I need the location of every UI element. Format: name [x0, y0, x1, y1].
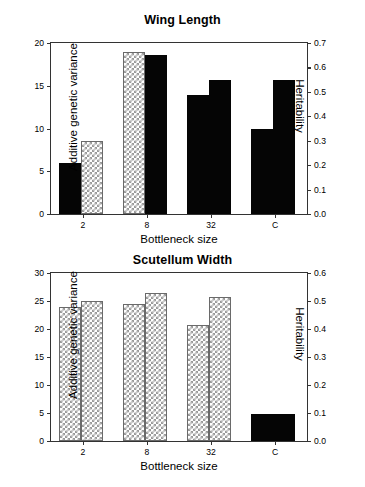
chart-title-bottom: Scutellum Width	[0, 253, 365, 267]
y-tick-label-right: 0.4	[314, 112, 326, 121]
figure-two-panel-bar-charts: Wing Length 05101520 0.00.10.20.30.40.50…	[0, 0, 365, 487]
y-tick-label-right: 0.1	[314, 409, 326, 418]
y-tick-right	[307, 357, 311, 358]
y-tick-right	[307, 385, 311, 386]
y-tick-left	[47, 129, 51, 130]
y-axis-right-title-top: Heritability	[294, 21, 306, 191]
y-tick-right	[307, 214, 311, 215]
y-tick-left	[47, 357, 51, 358]
y-tick-label-right: 0.3	[314, 136, 326, 145]
y-tick-right	[307, 413, 311, 414]
bar	[209, 297, 231, 441]
y-tick-right	[307, 92, 311, 93]
x-tick-label: C	[272, 448, 278, 457]
y-tick-right	[307, 141, 311, 142]
y-tick-left	[47, 413, 51, 414]
y-tick-label-left: 20	[34, 325, 44, 334]
plot-area-bottom: 051015202530 0.00.10.20.30.40.50.6 2832C…	[50, 272, 308, 442]
y-tick-label-right: 0.7	[314, 39, 326, 48]
y-axis-left-title-bottom: Additive genetic variance	[67, 250, 79, 420]
y-tick-label-left: 10	[34, 124, 44, 133]
y-tick-label-right: 0.5	[314, 297, 326, 306]
x-tick	[147, 441, 148, 445]
x-axis-title-bottom: Bottleneck size	[51, 460, 307, 472]
bar	[187, 325, 209, 441]
y-tick-label-right: 0.5	[314, 88, 326, 97]
y-tick-label-left: 20	[34, 39, 44, 48]
y-tick-label-left: 5	[39, 167, 44, 176]
y-tick-right	[307, 329, 311, 330]
x-tick-label: 8	[145, 221, 150, 230]
x-tick-label: 2	[81, 448, 86, 457]
x-tick	[211, 214, 212, 218]
bar	[145, 293, 167, 441]
bar	[145, 55, 167, 214]
y-tick-left	[47, 273, 51, 274]
panel-scutellum-width: Scutellum Width 051015202530 0.00.10.20.…	[0, 244, 365, 487]
bar	[187, 95, 209, 214]
y-tick-label-right: 0.6	[314, 269, 326, 278]
y-tick-label-left: 15	[34, 353, 44, 362]
x-tick-label: 32	[206, 448, 216, 457]
x-tick	[275, 441, 276, 445]
y-tick-label-left: 25	[34, 297, 44, 306]
y-tick-label-left: 0	[39, 437, 44, 446]
panel-wing-length: Wing Length 05101520 0.00.10.20.30.40.50…	[0, 0, 365, 244]
x-tick-label: 32	[206, 221, 216, 230]
x-tick	[211, 441, 212, 445]
y-tick-left	[47, 441, 51, 442]
y-tick-right	[307, 190, 311, 191]
y-tick-label-right: 0.2	[314, 161, 326, 170]
y-tick-right	[307, 67, 311, 68]
y-tick-left	[47, 329, 51, 330]
y-tick-label-left: 10	[34, 381, 44, 390]
x-tick	[83, 441, 84, 445]
y-tick-label-left: 30	[34, 269, 44, 278]
y-tick-label-right: 0.1	[314, 185, 326, 194]
bar	[251, 129, 273, 214]
y-tick-left	[47, 301, 51, 302]
y-tick-left	[47, 385, 51, 386]
bars-container-top	[51, 43, 307, 214]
y-tick-left	[47, 43, 51, 44]
bar	[209, 80, 231, 214]
bar	[81, 301, 103, 441]
x-tick	[275, 214, 276, 218]
x-tick-label: 8	[145, 448, 150, 457]
bar	[123, 52, 145, 214]
y-tick-label-right: 0.6	[314, 63, 326, 72]
y-tick-right	[307, 116, 311, 117]
bar	[251, 414, 295, 441]
y-tick-label-right: 0.3	[314, 353, 326, 362]
y-tick-label-right: 0.0	[314, 210, 326, 219]
y-tick-right	[307, 165, 311, 166]
y-tick-right	[307, 301, 311, 302]
y-tick-left	[47, 171, 51, 172]
y-tick-label-right: 0.4	[314, 325, 326, 334]
x-tick	[83, 214, 84, 218]
bar	[123, 304, 145, 441]
y-tick-right	[307, 273, 311, 274]
y-tick-label-left: 15	[34, 81, 44, 90]
x-tick-label: 2	[81, 221, 86, 230]
y-tick-left	[47, 214, 51, 215]
y-tick-label-left: 5	[39, 409, 44, 418]
y-tick-left	[47, 86, 51, 87]
chart-title-top: Wing Length	[0, 13, 365, 27]
y-tick-label-left: 0	[39, 210, 44, 219]
bar	[81, 141, 103, 214]
y-tick-right	[307, 441, 311, 442]
plot-area-top: 05101520 0.00.10.20.30.40.50.60.7 2832C …	[50, 42, 308, 215]
y-axis-right-title-bottom: Heritability	[294, 249, 306, 419]
x-tick-label: C	[272, 221, 278, 230]
y-tick-right	[307, 43, 311, 44]
y-tick-label-right: 0.0	[314, 437, 326, 446]
bar	[273, 80, 295, 214]
bars-container-bottom	[51, 273, 307, 441]
x-tick	[147, 214, 148, 218]
y-tick-label-right: 0.2	[314, 381, 326, 390]
y-axis-left-title-top: Additive genetic variance	[67, 22, 79, 192]
